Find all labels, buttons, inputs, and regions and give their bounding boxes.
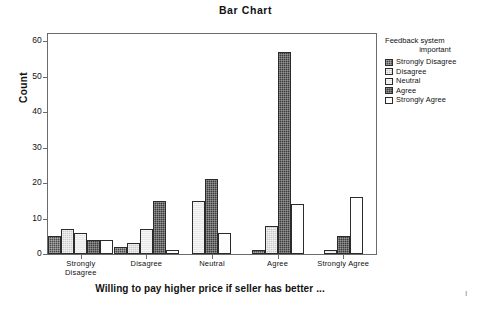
- x-axis-label: Disagree: [114, 260, 180, 269]
- legend-item: Strongly Disagree: [385, 58, 491, 66]
- bar: [100, 240, 113, 254]
- legend-title: Feedback system important: [385, 36, 485, 54]
- bar-group: [179, 34, 245, 254]
- chart-title: Bar Chart: [0, 4, 491, 16]
- bar-chart-figure: Bar Chart Count 0102030405060 Strongly D…: [0, 0, 491, 310]
- legend-label: Strongly Agree: [396, 96, 446, 104]
- bar-group: [310, 34, 376, 254]
- legend-title-line2: important: [385, 45, 485, 54]
- legend-item: Strongly Agree: [385, 96, 491, 104]
- bar: [74, 233, 87, 254]
- y-tick-label: 50: [32, 71, 42, 81]
- y-tick-label: 40: [32, 106, 42, 116]
- legend: Feedback system important Strongly Disag…: [385, 36, 491, 106]
- bar: [218, 233, 231, 254]
- bar: [48, 236, 61, 254]
- bar: [205, 179, 218, 254]
- y-tick-label: 30: [32, 142, 42, 152]
- x-axis-ticks: Strongly DisagreeDisagreeNeutralAgreeStr…: [48, 255, 376, 279]
- x-axis-label: Agree: [245, 260, 311, 269]
- y-tick-label: 0: [37, 248, 42, 258]
- legend-items: Strongly DisagreeDisagreeNeutralAgreeStr…: [385, 58, 491, 104]
- bar: [324, 250, 337, 254]
- y-axis-ticks: 0102030405060: [0, 33, 47, 255]
- x-axis-label: Strongly Agree: [310, 260, 376, 269]
- bar: [350, 197, 363, 254]
- bar: [114, 247, 127, 254]
- legend-label: Disagree: [396, 68, 426, 76]
- bar: [252, 250, 265, 254]
- y-tick-label: 60: [32, 35, 42, 45]
- bar: [192, 201, 205, 254]
- bar-group: [48, 34, 114, 254]
- legend-swatch-icon: [385, 59, 393, 66]
- legend-item: Disagree: [385, 68, 491, 76]
- bar: [278, 52, 291, 254]
- bar-group: [245, 34, 311, 254]
- x-axis-label: Neutral: [179, 260, 245, 269]
- bar: [61, 229, 74, 254]
- x-axis-title: Willing to pay higher price if seller ha…: [40, 283, 380, 294]
- bars-area: [48, 34, 376, 254]
- legend-label: Neutral: [396, 77, 421, 85]
- legend-label: Strongly Disagree: [396, 58, 456, 66]
- page-mark: l: [465, 289, 467, 298]
- legend-title-line1: Feedback system: [385, 36, 485, 45]
- bar: [166, 250, 179, 254]
- y-tick-label: 10: [32, 213, 42, 223]
- y-tick-label: 20: [32, 177, 42, 187]
- legend-swatch-icon: [385, 97, 393, 104]
- legend-label: Agree: [396, 87, 416, 95]
- legend-swatch-icon: [385, 78, 393, 85]
- bar: [140, 229, 153, 254]
- bar: [153, 201, 166, 254]
- bar: [265, 226, 278, 254]
- bar: [127, 243, 140, 254]
- x-axis-label: Strongly Disagree: [48, 260, 114, 277]
- legend-swatch-icon: [385, 87, 393, 94]
- legend-item: Neutral: [385, 77, 491, 85]
- legend-swatch-icon: [385, 68, 393, 75]
- bar: [87, 240, 100, 254]
- bar: [291, 204, 304, 254]
- legend-item: Agree: [385, 87, 491, 95]
- bar: [337, 236, 350, 254]
- bar-group: [114, 34, 180, 254]
